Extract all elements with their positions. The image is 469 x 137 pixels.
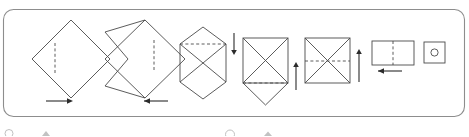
cut-off-icon-2 — [42, 131, 50, 136]
cut-off-icon-3 — [226, 130, 235, 136]
panel-border — [4, 10, 465, 117]
cut-off-icon-1 — [5, 130, 13, 137]
origami-diagram-svg — [0, 0, 469, 136]
edge-icons-group — [5, 130, 272, 137]
origami-diagram-stage — [0, 0, 469, 136]
cut-off-icon-4 — [264, 132, 272, 137]
